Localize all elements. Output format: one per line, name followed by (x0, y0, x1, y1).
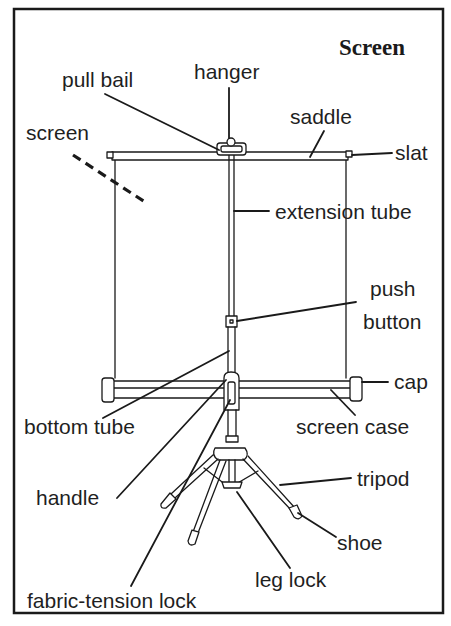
label-push: push (370, 277, 416, 300)
label-screen: screen (26, 121, 89, 144)
label-saddle: saddle (290, 105, 352, 128)
tripod-leg-left (161, 455, 218, 508)
diagram-title: Screen (339, 35, 405, 60)
label-leg-lock: leg lock (255, 568, 327, 591)
label-pull-bail: pull bail (62, 68, 133, 91)
label-cap: cap (394, 370, 428, 393)
label-handle: handle (36, 486, 99, 509)
label-extension-tube: extension tube (275, 200, 412, 223)
label-hanger: hanger (194, 60, 259, 83)
push-button-collar (226, 316, 237, 327)
tripod-hub (214, 448, 248, 460)
label-screen-case: screen case (296, 415, 409, 438)
label-tripod: tripod (357, 467, 410, 490)
tripod-leg-right (243, 456, 302, 519)
label-bottom-tube: bottom tube (24, 415, 135, 438)
leg-lock-clip (222, 482, 242, 488)
leader-lines (103, 88, 392, 586)
label-slat: slat (395, 141, 428, 164)
label-shoe: shoe (337, 531, 383, 554)
label-button: button (363, 310, 421, 333)
screen-diagram: Screen (0, 0, 451, 626)
screen-indicator-dash (73, 155, 145, 202)
label-fabric-tension-lock: fabric-tension lock (27, 589, 197, 612)
